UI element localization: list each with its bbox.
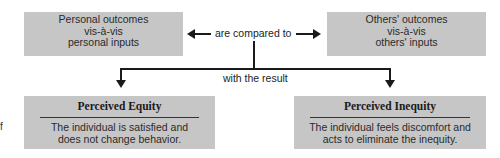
personal-comparison-box: Personal outcomes vis-à-vis personal inp… <box>24 12 183 56</box>
arrow-down-icon <box>385 80 395 88</box>
result-label: with the result <box>223 72 288 84</box>
outcome-title: Perceived Equity <box>40 101 199 118</box>
body-line: does not change behavior. <box>24 133 215 145</box>
outcome-body: The individual is satisfied and does not… <box>24 121 215 145</box>
outcome-body: The individual feels discomfort and acts… <box>294 121 486 145</box>
connector-line <box>120 68 391 70</box>
box-line: others' inputs <box>327 37 486 49</box>
outcome-title: Perceived Inequity <box>310 101 470 118</box>
connector-line <box>194 33 211 35</box>
arrow-right-icon <box>313 29 321 39</box>
comparison-label: are compared to <box>215 27 291 39</box>
others-comparison-box: Others' outcomes vis-à-vis others' input… <box>327 12 486 56</box>
connector-line <box>253 41 255 69</box>
body-line: acts to eliminate the inequity. <box>294 133 486 145</box>
arrow-down-icon <box>116 80 126 88</box>
margin-text-fragment: f <box>0 121 3 132</box>
body-line: The individual feels discomfort and <box>294 121 486 133</box>
box-line: personal inputs <box>24 37 183 49</box>
body-line: The individual is satisfied and <box>24 121 215 133</box>
perceived-inequity-box: Perceived Inequity The individual feels … <box>294 96 486 149</box>
box-line: Others' outcomes <box>327 14 486 26</box>
box-line: Personal outcomes <box>24 14 183 26</box>
perceived-equity-box: Perceived Equity The individual is satis… <box>24 96 215 149</box>
connector-line <box>296 33 313 35</box>
